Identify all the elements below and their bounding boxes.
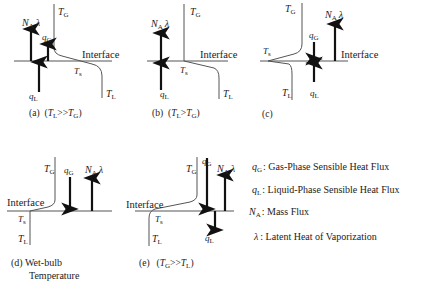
panel-caption-b: (b)(TL>TG)	[152, 108, 200, 120]
panel-caption-d-line2: Temperature	[29, 270, 80, 281]
T-G-label: TG	[186, 163, 197, 176]
interface-label: Interface	[126, 199, 164, 210]
legend-item-q-L: qL: Liquid-Phase Sensible Heat Flux	[252, 184, 400, 197]
N-A-lambda-label: NAλ	[324, 9, 344, 22]
N-A-lambda-label: NAλ	[21, 17, 41, 30]
q-L-label: qL	[205, 233, 214, 245]
interface-label: Interface	[7, 197, 45, 208]
interface-label: Interface	[82, 49, 120, 60]
legend: qG: Gas-Phase Sensible Heat Flux qL: Liq…	[248, 161, 400, 242]
q-L-label: qL	[310, 88, 319, 100]
heat-mass-transfer-diagram: TG NAλ qG Interface Ts qL TL (a)(TL>>TG)…	[0, 0, 431, 290]
panel-e: TG qG NAλ Interface Ts TL qL (e)(TG>>TL)	[126, 156, 236, 270]
T-L-label: TL	[282, 87, 292, 100]
temperature-profile	[268, 3, 302, 100]
panel-b: TG NAλ Interface Ts qL TL (b)(TL>TG)	[147, 4, 238, 120]
T-G-label: TG	[58, 6, 69, 19]
q-G-label: qG	[202, 156, 212, 168]
panel-caption-e: (e)(TG>>TL)	[139, 258, 194, 270]
legend-item-lambda: λ: Latent Heat of Vaporization	[253, 231, 377, 242]
q-G-label: qG	[309, 30, 319, 42]
T-L-label: TL	[223, 88, 233, 101]
panel-a: TG NAλ qG Interface Ts qL TL (a)(TL>>TG)	[14, 4, 120, 120]
N-A-lambda-label: NAλ	[216, 163, 236, 176]
T-s-label: Ts	[180, 65, 188, 77]
q-L-label: qL	[29, 91, 38, 103]
interface-label: Interface	[341, 49, 379, 60]
legend-item-q-G: qG: Gas-Phase Sensible Heat Flux	[252, 161, 389, 174]
panel-caption-d: (d) Wet-bulb	[11, 257, 62, 269]
T-s-label: Ts	[74, 66, 82, 78]
panel-c: TG NAλ qG Interface Ts TL qL (c)	[260, 3, 379, 120]
panel-d: TG qG NAλ Interface Ts TL (d) Wet-bulb T…	[7, 157, 112, 281]
T-s-label: Ts	[18, 214, 26, 226]
panel-caption-a: (a)(TL>>TG)	[29, 108, 82, 120]
T-s-label: Ts	[263, 46, 271, 58]
legend-item-N-A: NA: Mass Flux	[248, 206, 309, 219]
interface-label: Interface	[200, 49, 238, 60]
T-L-label: TL	[152, 233, 162, 246]
q-G-label: qG	[64, 165, 74, 177]
N-A-lambda-label: NAλ	[150, 18, 170, 31]
T-L-label: TL	[18, 233, 28, 246]
T-s-label: Ts	[155, 214, 163, 226]
T-G-label: TG	[285, 3, 296, 16]
T-G-label: TG	[44, 163, 55, 176]
q-G-label: qG	[42, 32, 52, 44]
panel-caption-c: (c)	[262, 109, 273, 120]
T-G-label: TG	[190, 6, 201, 19]
q-L-label: qL	[160, 89, 169, 101]
T-L-label: TL	[106, 88, 116, 101]
N-A-lambda-label: NAλ	[84, 164, 104, 177]
